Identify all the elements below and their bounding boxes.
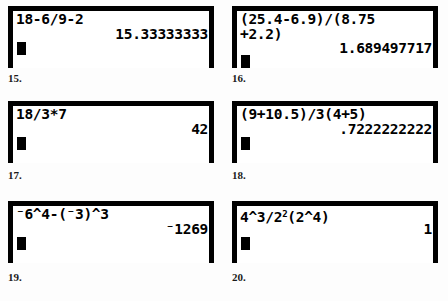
calculator-screen-19: ⁻6^4-(⁻3)^3 ⁻1269 <box>8 201 214 263</box>
problem-cell-18: (9+10.5)/3(4+5) .7222222222 18. <box>224 95 448 195</box>
cursor-block-19 <box>17 237 26 250</box>
result-line-19: ⁻1269 <box>16 222 208 237</box>
lcd-display-20: 4^3/22(2^4) 1 <box>237 206 433 263</box>
problem-number-17: 17. <box>8 170 22 181</box>
lcd-display-18: (9+10.5)/3(4+5) .7222222222 <box>237 106 433 163</box>
cursor-block-18 <box>241 137 250 150</box>
problem-number-18: 18. <box>232 170 246 181</box>
lcd-display-15: 18-6/9-2 15.33333333 <box>13 11 209 68</box>
problem-cell-20: 4^3/22(2^4) 1 20. <box>224 195 448 301</box>
cursor-block-17 <box>17 137 26 150</box>
calculator-screen-17: 18/3*7 42 <box>8 101 214 163</box>
problem-cell-19: ⁻6^4-(⁻3)^3 ⁻1269 19. <box>0 195 224 301</box>
result-line-15: 15.33333333 <box>16 27 208 42</box>
worksheet-page: 18-6/9-2 15.33333333 15. (25.4-6.9)/(8.7… <box>0 0 448 301</box>
calculator-screen-18: (9+10.5)/3(4+5) .7222222222 <box>232 101 438 163</box>
problem-cell-15: 18-6/9-2 15.33333333 15. <box>0 0 224 95</box>
calculator-screen-15: 18-6/9-2 15.33333333 <box>8 6 214 68</box>
problem-number-16: 16. <box>232 73 246 84</box>
expression-tail-20: (2^4) <box>287 209 329 225</box>
expression-base-20: 4^3/2 <box>240 209 282 225</box>
calculator-screen-20: 4^3/22(2^4) 1 <box>232 201 438 263</box>
result-line-18: .7222222222 <box>240 122 432 137</box>
problem-number-20: 20. <box>232 272 246 283</box>
expression-line-16: (25.4-6.9)/(8.75 <box>240 12 432 27</box>
expression-line-20: 4^3/22(2^4) <box>240 207 432 222</box>
calculator-screen-16: (25.4-6.9)/(8.75 +2.2) 1.689497717 <box>232 6 438 68</box>
result-line-17: 42 <box>16 122 208 137</box>
expression-line-17: 18/3*7 <box>16 107 208 122</box>
expression-line-15: 18-6/9-2 <box>16 12 208 27</box>
expression-line-19: ⁻6^4-(⁻3)^3 <box>16 207 208 222</box>
problem-cell-16: (25.4-6.9)/(8.75 +2.2) 1.689497717 16. <box>224 0 448 95</box>
expression-line-18: (9+10.5)/3(4+5) <box>240 107 432 122</box>
lcd-display-19: ⁻6^4-(⁻3)^3 ⁻1269 <box>13 206 209 263</box>
problem-number-19: 19. <box>8 272 22 283</box>
problem-cell-17: 18/3*7 42 17. <box>0 95 224 195</box>
cursor-block-20 <box>241 237 250 250</box>
cursor-block-16 <box>241 55 250 68</box>
lcd-display-17: 18/3*7 42 <box>13 106 209 163</box>
lcd-display-16: (25.4-6.9)/(8.75 +2.2) 1.689497717 <box>237 11 433 68</box>
problem-number-15: 15. <box>8 73 22 84</box>
cursor-block-15 <box>17 42 26 55</box>
result-line-16: 1.689497717 <box>240 41 432 56</box>
problem-grid: 18-6/9-2 15.33333333 15. (25.4-6.9)/(8.7… <box>0 0 448 301</box>
expression-line-continued-16: +2.2) <box>240 27 432 42</box>
